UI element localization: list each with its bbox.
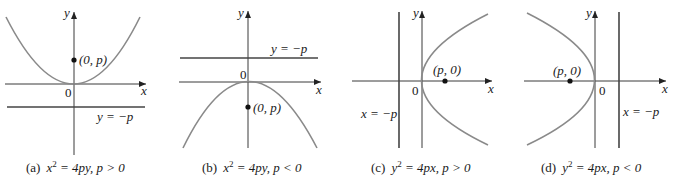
y-axis-label: y xyxy=(411,5,419,20)
parabola-curve xyxy=(183,82,317,149)
focus-point xyxy=(245,104,250,109)
y-axis-label: y xyxy=(62,5,70,20)
panel-d: y x 0 (p, 0) x = −p (d)y2 = 4px, p < 0 xyxy=(524,5,668,175)
focus-label: (p, 0) xyxy=(433,62,461,77)
y-axis-label: y xyxy=(584,5,592,20)
focus-label: (0, p) xyxy=(79,52,107,67)
directrix-label: y = −p xyxy=(95,109,134,124)
focus-point xyxy=(71,57,76,62)
focus-label: (p, 0) xyxy=(553,63,581,78)
directrix-label: y = −p xyxy=(269,41,308,56)
panel-caption: (a)x2 = 4py, p > 0 xyxy=(26,159,125,175)
x-axis-label: x xyxy=(140,83,147,98)
panel-c: y x 0 (p, 0) x = −p (c)y2 = 4px, p > 0 xyxy=(352,5,494,175)
directrix-label: x = −p xyxy=(622,104,660,119)
focus-point xyxy=(442,78,447,83)
panel-caption: (d)y2 = 4px, p < 0 xyxy=(541,159,642,175)
panel-a: y x 0 (0, p) y = −p (a)x2 = 4py, p > 0 xyxy=(5,5,147,175)
origin-label: 0 xyxy=(65,85,72,100)
parabola-figure: y x 0 (0, p) y = −p (a)x2 = 4py, p > 0 y… xyxy=(0,0,673,193)
parabola-curve xyxy=(6,17,140,84)
panel-caption: (b)x2 = 4py, p < 0 xyxy=(202,159,302,175)
parabola-curve xyxy=(527,13,595,145)
origin-label: 0 xyxy=(412,83,419,98)
focus-label: (0, p) xyxy=(253,100,281,115)
directrix-label: x = −p xyxy=(360,106,398,121)
panel-b: y x 0 (0, p) y = −p (b)x2 = 4py, p < 0 xyxy=(179,5,322,175)
y-axis-label: y xyxy=(236,5,244,20)
x-axis-label: x xyxy=(315,82,322,97)
x-axis-label: x xyxy=(487,81,494,96)
panel-caption: (c)y2 = 4px, p > 0 xyxy=(371,159,471,175)
parabola-curve xyxy=(422,14,489,145)
origin-label: 0 xyxy=(240,67,247,82)
focus-point xyxy=(567,78,572,83)
origin-label: 0 xyxy=(599,83,606,98)
x-axis-label: x xyxy=(661,81,668,96)
